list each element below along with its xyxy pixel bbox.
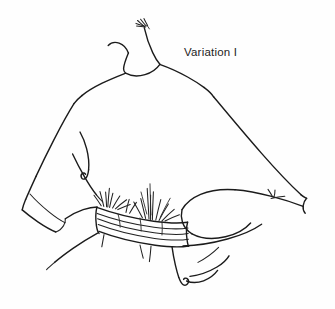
garment-sketch bbox=[0, 0, 335, 309]
bodice-drape bbox=[73, 132, 103, 202]
neckline bbox=[108, 28, 160, 76]
right-hip-curve bbox=[181, 210, 261, 246]
gathers bbox=[94, 184, 179, 221]
collar-hatching-icon bbox=[136, 19, 149, 29]
waistband bbox=[96, 207, 189, 246]
left-sleeve bbox=[22, 74, 124, 232]
illustration-canvas: Variation I bbox=[0, 0, 335, 309]
bodice-left-seam bbox=[65, 207, 97, 219]
right-sleeve bbox=[160, 65, 306, 214]
figure-caption: Variation I bbox=[184, 46, 237, 58]
hem-skirt bbox=[47, 233, 229, 285]
